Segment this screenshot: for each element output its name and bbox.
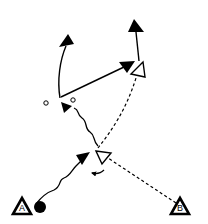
player-b: B (171, 198, 189, 214)
cone-icon (71, 98, 75, 102)
filled-arrowhead-mid-left (61, 102, 72, 113)
player-a-label: A (19, 203, 25, 213)
run-path-up-right (136, 32, 139, 61)
ball-icon (34, 201, 46, 213)
dribble-path-center-to-upper-left (74, 108, 98, 146)
filled-arrowhead-top-right (128, 19, 144, 32)
player-b-label: B (177, 203, 183, 213)
cone-icon (44, 101, 48, 105)
pass-path-b-to-center (108, 158, 176, 203)
run-path-up-left (59, 46, 66, 98)
open-triangle-upper-right (131, 62, 145, 77)
dribble-path-a-to-center (36, 158, 84, 204)
run-path-diagonal (61, 67, 124, 97)
pivot-arrow (92, 170, 104, 174)
pass-path-dashed-curve (98, 78, 136, 148)
filled-arrowhead-upper-right (119, 61, 135, 73)
filled-arrowhead-top-left (59, 34, 74, 47)
open-triangle-center (96, 151, 111, 164)
play-diagram: A B (0, 0, 208, 224)
player-a: A (13, 198, 31, 214)
